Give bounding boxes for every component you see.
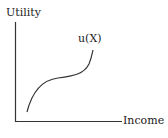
utility-diagram: Utility u(X) Income bbox=[0, 0, 168, 138]
utility-curve bbox=[27, 50, 93, 112]
x-axis-label: Income bbox=[123, 115, 164, 126]
curve-label: u(X) bbox=[78, 33, 102, 44]
y-axis-label: Utility bbox=[6, 7, 41, 18]
